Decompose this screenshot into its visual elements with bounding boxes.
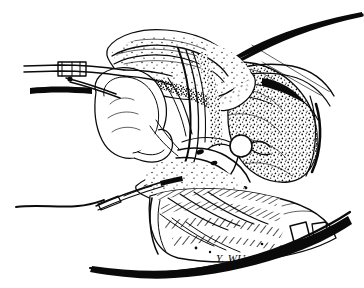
- illustration-canvas: Black and white pen-and-ink medical illu…: [0, 0, 364, 288]
- anatomical-drawing-svg: Y. WU: [0, 0, 364, 288]
- signature-text: Y. WU: [216, 252, 246, 264]
- signature: Y. WU: [216, 252, 246, 264]
